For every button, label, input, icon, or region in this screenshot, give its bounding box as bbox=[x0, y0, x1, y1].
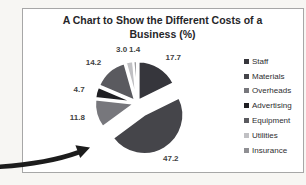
legend-label: Overheads bbox=[252, 86, 291, 95]
legend-swatch-icon bbox=[244, 118, 249, 123]
pie-label-equipment: 14.2 bbox=[86, 58, 102, 67]
pie-label-materials: 47.2 bbox=[163, 154, 179, 163]
legend-item-advertising: Advertising bbox=[244, 98, 302, 113]
legend-swatch-icon bbox=[244, 74, 249, 79]
legend-label: Materials bbox=[252, 72, 284, 81]
legend-item-equipment: Equipment bbox=[244, 113, 302, 128]
legend-item-materials: Materials bbox=[244, 69, 302, 84]
legend-swatch-icon bbox=[244, 59, 249, 64]
legend-swatch-icon bbox=[244, 148, 249, 153]
legend-label: Staff bbox=[252, 57, 268, 66]
chart-legend: StaffMaterialsOverheadsAdvertisingEquipm… bbox=[244, 54, 302, 158]
pie-slice-staff bbox=[139, 61, 174, 100]
legend-item-overheads: Overheads bbox=[244, 84, 302, 99]
legend-label: Advertising bbox=[252, 101, 292, 110]
pie-label-advertising: 4.7 bbox=[74, 85, 86, 94]
pie-label-utilities: 3.0 bbox=[116, 45, 128, 54]
legend-swatch-icon bbox=[244, 103, 249, 108]
pie-slices bbox=[95, 61, 183, 154]
legend-swatch-icon bbox=[244, 88, 249, 93]
pie-label-insurance: 1.4 bbox=[129, 45, 141, 54]
pie-label-staff: 17.7 bbox=[166, 53, 182, 62]
legend-label: Utilities bbox=[252, 131, 278, 140]
legend-item-utilities: Utilities bbox=[244, 128, 302, 143]
pie-slice-overheads bbox=[95, 100, 134, 127]
pie-label-overheads: 11.8 bbox=[70, 113, 86, 122]
legend-label: Equipment bbox=[252, 116, 290, 125]
legend-item-insurance: Insurance bbox=[244, 143, 302, 158]
legend-swatch-icon bbox=[244, 133, 249, 138]
legend-item-staff: Staff bbox=[244, 54, 302, 69]
legend-label: Insurance bbox=[252, 146, 287, 155]
